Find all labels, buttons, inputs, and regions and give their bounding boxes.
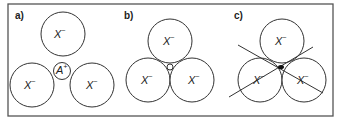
panel-a-label: a) (15, 10, 24, 21)
panel-c-label: c) (234, 10, 243, 21)
panel-b-label: b) (124, 10, 133, 21)
anion-top (41, 12, 85, 56)
panel-c: c) X− X− X− (229, 10, 326, 102)
panel-a: a) X− X− X− A+ (10, 10, 114, 107)
panel-b: b) X− X− X− (124, 10, 214, 102)
anion-bottom-left (10, 63, 54, 107)
cation (167, 64, 173, 70)
cation-dot (278, 65, 284, 69)
radius-ratio-diagram: a) X− X− X− A+ b) X− X− X− c) X− X− X− (0, 0, 338, 123)
